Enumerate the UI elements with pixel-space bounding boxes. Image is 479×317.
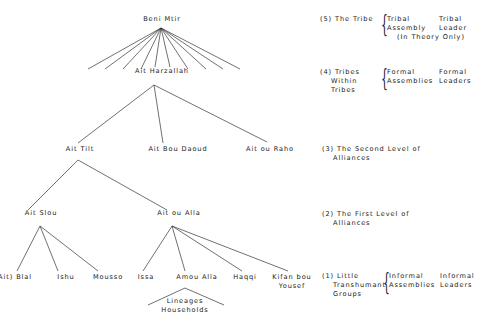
level-5-leader: Tribal	[439, 15, 462, 24]
level-4-label-2: Within	[331, 77, 357, 86]
node-mousso: Mousso	[93, 273, 123, 282]
level-4-leaders-2: Leaders	[439, 77, 471, 86]
node-ait-slou: Ait Slou	[25, 209, 57, 218]
node-households: Households	[161, 306, 208, 315]
node-ait-ou-raho: Ait ou Raho	[246, 145, 294, 154]
node-lineages: Lineages	[167, 297, 204, 306]
node-ait-blal: Ait) Blal	[0, 273, 32, 282]
tree-lines	[0, 0, 479, 317]
node-ait-harzallah: Ait Harzallah	[135, 67, 189, 76]
level-1-label-3: Groups	[333, 290, 362, 299]
level-5-label: (5) The Tribe	[320, 15, 373, 24]
level-4-assemblies: Formal	[387, 68, 415, 77]
node-ait-bou-daoud: Ait Bou Daoud	[148, 145, 207, 154]
level-1-label-2: Transhumant	[333, 281, 386, 290]
node-yousef: Yousef	[279, 282, 306, 291]
level-4-leaders: Formal	[439, 68, 467, 77]
level-4-assemblies-2: Assemblies	[387, 77, 433, 86]
level-3-label-1: (3) The Second Level of	[322, 145, 421, 154]
level-5-assembly: Tribal	[387, 15, 410, 24]
level-3-label-2: Alliances	[333, 154, 370, 163]
level-1-label-1: (1) Little	[322, 272, 359, 281]
level-4-label-1: (4) Tribes	[320, 68, 360, 77]
node-ait-ou-alla: Ait ou Alla	[157, 209, 200, 218]
level-5-leader-2: Leader	[439, 24, 467, 33]
level-5-note: (In Theory Only)	[397, 33, 465, 42]
node-kifan-bou: Kifan bou	[272, 273, 311, 282]
level-4-label-3: Tribes	[331, 86, 356, 95]
level-1-leaders: Informal	[440, 272, 475, 281]
level-1-assemblies-2: Assemblies	[389, 281, 435, 290]
level-2-label-2: Alliances	[333, 219, 370, 228]
node-issa: Issa	[138, 273, 154, 282]
level-1-leaders-2: Leaders	[440, 281, 472, 290]
node-beni-mtir: Beni Mtir	[143, 15, 181, 24]
node-amou-alla: Amou Alla	[176, 273, 218, 282]
node-ishu: Ishu	[57, 273, 74, 282]
level-5-assembly-2: Assembly	[387, 24, 426, 33]
node-ait-tilt: Ait Tilt	[66, 145, 94, 154]
level-1-assemblies: Informal	[389, 272, 424, 281]
level-2-label-1: (2) The First Level of	[322, 210, 409, 219]
node-haqqi: Haqqi	[233, 273, 257, 282]
